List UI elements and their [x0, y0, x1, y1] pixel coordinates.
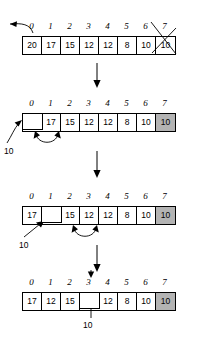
- swap-arrow-head-left-icon: [72, 225, 78, 233]
- connector-arrow-2: [0, 151, 198, 179]
- cross-stroke-icon: [151, 22, 176, 54]
- held-value-pointer-icon: [24, 224, 40, 237]
- array-cell-hole[interactable]: [22, 113, 43, 130]
- held-value-pointer-icon: [7, 123, 19, 143]
- swap-arrow-head-left-icon: [34, 131, 40, 139]
- extract-arrow-head-icon: [10, 21, 17, 27]
- figure-canvas: 0 1 2 3 4 5 6 7 20 17 15 12 12 8 10 10: [0, 0, 198, 351]
- swap-arrow-head-right-icon: [54, 131, 60, 139]
- down-marker-head-icon: [88, 271, 94, 278]
- swap-arrow-head-right-icon: [92, 225, 98, 233]
- held-value-pointer-head-icon: [15, 120, 22, 127]
- connector-arrow-1: [0, 63, 198, 89]
- connector-arrow-3: [0, 245, 198, 273]
- step-3-annotation-ink: [0, 190, 198, 252]
- array-cell-hole[interactable]: [41, 206, 62, 223]
- array-cell-hole[interactable]: [79, 292, 100, 309]
